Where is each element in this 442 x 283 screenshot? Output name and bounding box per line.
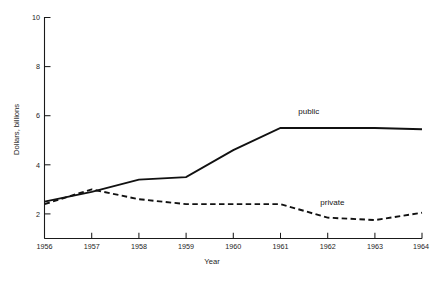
x-tick-label-1964: 1964 bbox=[413, 242, 429, 251]
y-axis-ticks bbox=[45, 18, 51, 214]
x-tick-label-1960: 1960 bbox=[225, 242, 241, 251]
x-tick-label-1959: 1959 bbox=[178, 242, 194, 251]
y-axis-tick-labels: 10 8 6 4 2 bbox=[32, 13, 40, 218]
series-annotation-public: public bbox=[298, 107, 319, 116]
y-tick-label-8: 8 bbox=[36, 62, 40, 71]
y-tick-label-2: 2 bbox=[36, 210, 40, 219]
y-axis-title: Dollars, billions bbox=[12, 104, 21, 155]
x-tick-label-1957: 1957 bbox=[84, 242, 100, 251]
x-tick-label-1958: 1958 bbox=[131, 242, 147, 251]
x-tick-label-1956: 1956 bbox=[37, 242, 53, 251]
y-tick-label-4: 4 bbox=[36, 161, 40, 170]
x-tick-label-1963: 1963 bbox=[367, 242, 383, 251]
x-tick-label-1962: 1962 bbox=[320, 242, 336, 251]
y-tick-label-6: 6 bbox=[36, 111, 40, 120]
x-axis-title: Year bbox=[204, 257, 220, 266]
x-axis-ticks bbox=[45, 233, 423, 239]
line-chart-svg: 10 8 6 4 2 Dollars, billions 1956 1957 1… bbox=[0, 0, 442, 283]
y-tick-label-10: 10 bbox=[32, 13, 40, 22]
x-axis-tick-labels: 1956 1957 1958 1959 1960 1961 1962 1963 … bbox=[37, 242, 430, 251]
series-line-public bbox=[45, 128, 423, 202]
series-line-private bbox=[45, 189, 423, 220]
chart-figure: 10 8 6 4 2 Dollars, billions 1956 1957 1… bbox=[0, 0, 442, 283]
series-annotation-private: private bbox=[320, 198, 345, 207]
x-tick-label-1961: 1961 bbox=[273, 242, 289, 251]
